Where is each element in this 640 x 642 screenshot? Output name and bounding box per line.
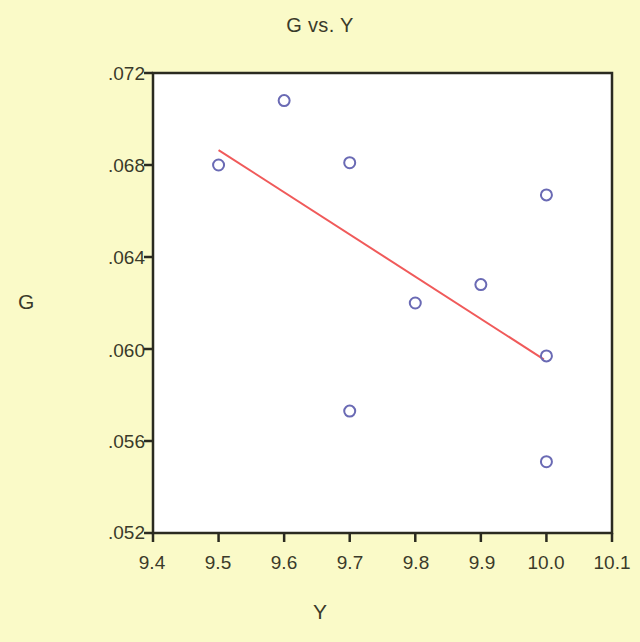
plot-area-background (153, 73, 612, 533)
chart-figure: G vs. Y G Y .072 .068 .064 .060 .056 .05… (0, 0, 640, 642)
plot-svg (0, 0, 640, 642)
